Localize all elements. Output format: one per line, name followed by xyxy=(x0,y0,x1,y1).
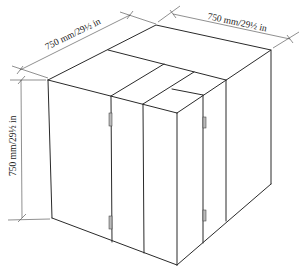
hinge-icon xyxy=(109,216,112,229)
hinge-icon xyxy=(203,117,206,128)
cube-drawing: 750 mm/29½ in 750 mm/29½ in 750 mm/29½ i… xyxy=(0,0,306,272)
cube-cabinet-diagram: 750 mm/29½ in 750 mm/29½ in 750 mm/29½ i… xyxy=(0,0,306,272)
dimension-height: 750 mm/29½ in xyxy=(8,76,50,222)
top-face-divisions xyxy=(108,50,226,104)
hinge-icon xyxy=(109,113,112,126)
cube-outline xyxy=(48,25,271,265)
dimension-label-height: 750 mm/29½ in xyxy=(8,115,18,176)
dimension-top-right: 750 mm/29½ in xyxy=(158,6,299,48)
hinge-icon xyxy=(203,210,206,221)
left-face-seams xyxy=(111,96,144,253)
dimension-label-top-left: 750 mm/29½ in xyxy=(43,16,102,52)
right-face-seams xyxy=(203,80,226,243)
dimension-label-top-right: 750 mm/29½ in xyxy=(207,11,268,33)
dimension-top-left: 750 mm/29½ in xyxy=(12,11,156,78)
hinges xyxy=(109,113,206,229)
